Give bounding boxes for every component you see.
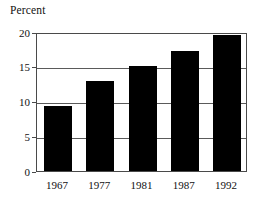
x-tick-label: 1967 [37, 180, 77, 191]
bar [44, 106, 72, 171]
y-tick-label: 15 [6, 62, 30, 73]
x-tick-label: 1992 [206, 180, 246, 191]
plot-area [36, 33, 247, 172]
y-tick-label: 0 [6, 167, 30, 178]
x-tick-label: 1977 [79, 180, 119, 191]
chart-title: Percent [10, 4, 46, 16]
x-tick-label: 1981 [122, 180, 162, 191]
bar [129, 66, 157, 171]
y-tick-label: 20 [6, 28, 30, 39]
y-tick-label: 10 [6, 97, 30, 108]
bar [213, 35, 241, 171]
y-tick-mark [32, 172, 36, 173]
bar [86, 81, 114, 171]
bar [171, 51, 199, 171]
x-tick-label: 1987 [164, 180, 204, 191]
y-tick-mark [32, 33, 36, 34]
y-tick-label: 5 [6, 132, 30, 143]
y-tick-mark [32, 102, 36, 103]
y-tick-mark [32, 137, 36, 138]
bar-chart: Percent 05101520 19671977198119871992 [0, 0, 264, 201]
y-tick-mark [32, 67, 36, 68]
